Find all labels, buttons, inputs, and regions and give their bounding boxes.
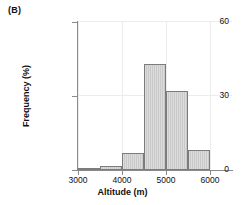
histogram-bar [166,91,188,170]
histogram-bar [100,166,122,170]
figure-panel-b: (B) 03060 3000400050006000 Frequency (%)… [0,0,245,205]
y-axis-tick-label: 60 [189,16,245,26]
y-axis-tick-mark [72,170,77,171]
x-axis-tick-label: 5000 [146,175,186,185]
x-axis-title: Altitude (m) [0,187,245,197]
y-axis-tick-label: 30 [189,90,245,100]
gridline-vertical [78,22,79,170]
panel-label: (B) [8,5,21,15]
gridline-vertical [122,22,123,170]
y-axis-tick-mark [72,22,77,23]
x-axis-tick-label: 3000 [58,175,98,185]
x-axis-tick-label: 6000 [190,175,230,185]
y-axis-tick-mark [72,96,77,97]
x-axis-tick-label: 4000 [102,175,142,185]
histogram-bar [78,168,100,170]
histogram-bar [144,64,166,170]
y-axis-title: Frequency (%) [21,65,31,127]
histogram-bar [122,153,144,170]
y-axis-tick-label: 0 [189,164,245,174]
